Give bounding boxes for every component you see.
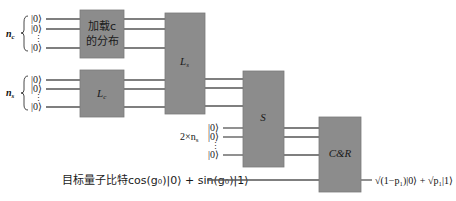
register-ancilla-label: 2×ns [180,131,199,144]
target-qubit: 目标量子比特cos(g₀)|0⟩ + sin(g₀)|1⟩ √(1−p₁)|0⟩… [62,173,453,187]
gate-S-label: S [260,111,266,123]
gate-load-line1: 加载c [88,20,116,33]
gate-load-line2: 的分布 [86,34,119,48]
gate-load-distribution: 加载c 的分布 [80,10,124,58]
brace-icon [21,16,28,51]
register-ancilla: 2×ns |0⟩ |0⟩ ⋮ |0⟩ [180,122,243,160]
gate-S: S [243,71,284,167]
gate-CR: C&R [319,117,361,192]
register-n-c-label: nc [6,28,15,41]
register-n-s-label: ns [6,87,15,100]
ket-zero: |0⟩ [31,42,42,53]
output-state-label: √(1−p₁)|0⟩ + √p₁|1⟩ [375,175,453,187]
gate-CR-label: C&R [329,147,352,159]
ket-zero: |0⟩ [31,101,42,112]
gate-box [80,10,124,58]
gate-Lc: Lc [80,70,124,117]
quantum-circuit-diagram: nc |0⟩ |0⟩ ⋮ |0⟩ ns |0⟩ |0⟩ ⋮ |0⟩ 2×ns |… [0,0,456,201]
brace-icon [21,76,28,110]
ket-zero: |0⟩ [208,149,219,160]
ket-zero: |0⟩ [31,23,42,34]
gate-Ls: Ls [165,13,205,114]
